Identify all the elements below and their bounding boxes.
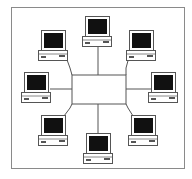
link-bottom-left (64, 104, 72, 116)
computer-icon-top-left (39, 31, 68, 61)
network-diagram (0, 0, 192, 179)
computer-icon-bottom-right (129, 116, 158, 146)
computer-icon-bottom-left (39, 116, 68, 146)
computer-icon-bottom (84, 134, 113, 164)
computer-icon-left (22, 73, 51, 103)
link-bottom-right (126, 104, 133, 116)
computer-icon-right (149, 73, 178, 103)
computer-icon-top (83, 17, 112, 47)
computer-icon-top-right (127, 31, 156, 61)
central-hub (72, 75, 126, 104)
